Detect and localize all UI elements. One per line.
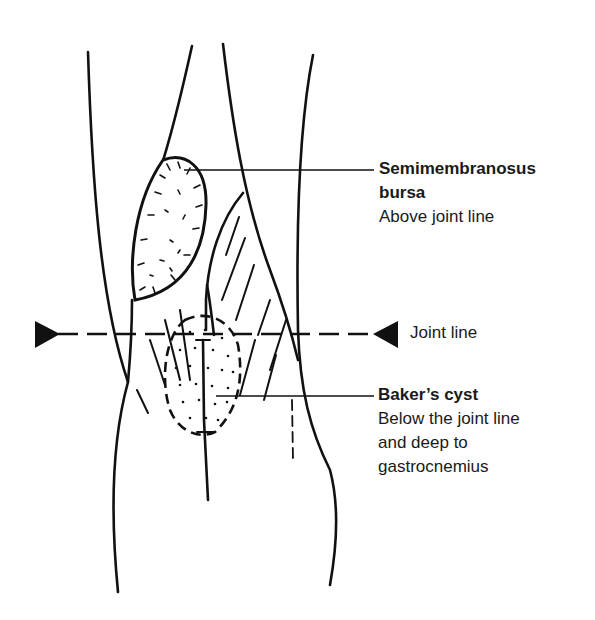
bakers-cyst-description-line1: Below the joint line — [378, 407, 520, 431]
joint-line-right-arrow-icon — [373, 321, 398, 348]
knee-line-drawing — [0, 0, 595, 620]
gastrocnemius-inner — [207, 285, 214, 335]
left-popliteal-line — [128, 300, 132, 382]
semimembranosus-bursa-label: Semimembranosus bursa Above joint line — [379, 157, 536, 229]
knee-diagram: Semimembranosus bursa Above joint line J… — [0, 0, 595, 620]
central-raphe — [203, 340, 208, 500]
semimembranosus-title-line2: bursa — [379, 181, 536, 205]
inner-right-thigh-line — [223, 44, 298, 360]
semimembranosus-description: Above joint line — [379, 205, 536, 229]
inner-left-thigh-line — [160, 46, 192, 170]
bakers-cyst-title: Baker’s cyst — [378, 383, 520, 407]
bakers-cyst-description-line2: and deep to — [378, 431, 520, 455]
semimembranosus-title-line1: Semimembranosus — [379, 157, 536, 181]
joint-line-label: Joint line — [410, 323, 477, 343]
left-limb-contour — [88, 52, 128, 592]
bakers-cyst-description-line3: gastrocnemius — [378, 455, 520, 479]
bakers-cyst-label: Baker’s cyst Below the joint line and de… — [378, 383, 520, 479]
right-limb-contour — [298, 55, 336, 585]
joint-line-left-arrow-icon — [35, 321, 60, 348]
semimembranosus-bursa-shape — [132, 158, 206, 300]
